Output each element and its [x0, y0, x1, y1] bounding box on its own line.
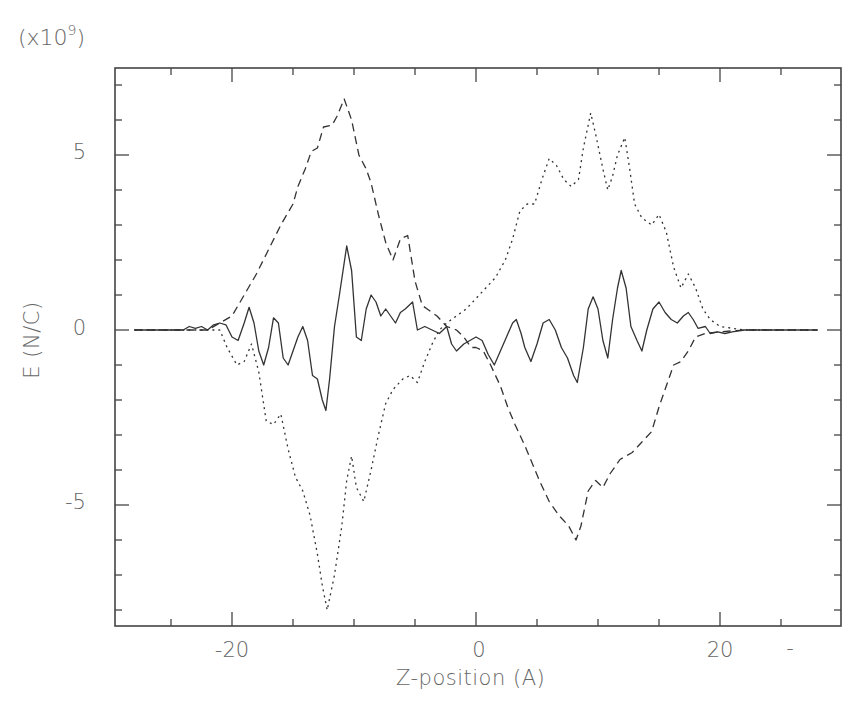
- y-scale-multiplier: (x109): [18, 24, 85, 50]
- y-tick-label-5: 5: [26, 140, 86, 164]
- y-axis-title: E (N/C): [20, 290, 44, 390]
- series-line-dotted: [134, 113, 817, 610]
- x-tick-label-20: 20: [680, 638, 760, 662]
- x-tick-label-dash: -: [750, 636, 830, 660]
- x-tick-label-neg20: -20: [192, 638, 272, 662]
- x-tick-label-0: 0: [439, 638, 519, 662]
- plot-series: [134, 99, 817, 610]
- plot-border: [115, 68, 841, 626]
- axis-ticks: [115, 68, 841, 626]
- axes-frame: [115, 68, 841, 626]
- series-line-solid: [134, 246, 817, 411]
- series-line-dashed: [134, 99, 817, 540]
- y-tick-label-neg5: -5: [26, 490, 86, 514]
- x-axis-title: Z-position (A): [396, 666, 545, 690]
- chart-canvas: [0, 0, 852, 708]
